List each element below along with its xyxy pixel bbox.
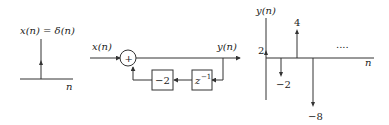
gain-label: −2 [155,75,170,86]
response-n-label: n [365,57,371,68]
feedback-to-adder-arrow [133,67,152,80]
feedback-tap [212,58,223,80]
response-y-label: y(n) [255,5,276,16]
impulse-panel: x(n) = δ(n) n [20,25,75,92]
impulse-arrow-icon [39,60,43,65]
stem-arrow-icon-0 [264,50,268,55]
impulse-n-label: n [66,81,72,92]
impulse-title: x(n) = δ(n) [20,25,75,36]
output-label: y(n) [216,41,237,52]
stem-label-2: 4 [294,17,300,28]
adder-symbol: + [125,53,133,64]
delay-label: z [194,75,201,86]
stem-label-1: −2 [276,79,291,90]
continuation-ellipsis: .... [336,39,349,50]
stem-label-0: 2 [258,45,264,56]
diagram-canvas: x(n) = δ(n) n x(n) + y(n) z −1 −2 y(n) n… [0,0,389,125]
stem-label-3: −8 [308,111,323,122]
stem-arrow-icon-3 [311,102,315,107]
input-label: x(n) [92,41,112,52]
stem-arrow-icon-2 [295,29,299,34]
block-diagram: x(n) + y(n) z −1 −2 [90,41,240,90]
stem-arrow-icon-1 [279,72,283,77]
response-panel: y(n) n 2 −2 4 −8 .... [255,5,374,122]
delay-exponent: −1 [201,73,211,81]
